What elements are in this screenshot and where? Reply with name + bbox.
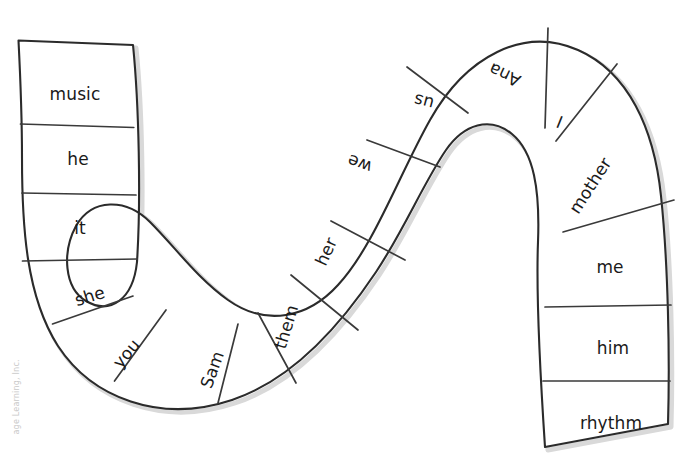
word-cell-me[interactable]: me [596, 257, 623, 277]
word-cell-he[interactable]: he [67, 149, 88, 169]
word-cell-we[interactable]: we [345, 150, 375, 177]
word-cell-music[interactable]: music [50, 84, 101, 104]
word-path-diagram: musicheitsheyouSamthemherweusAnaImotherm… [0, 0, 683, 465]
word-cell-her[interactable]: her [311, 234, 341, 268]
word-cell-it[interactable]: it [74, 218, 86, 238]
copyright-watermark: age Learning, Inc. [12, 315, 21, 435]
worksheet-canvas: musicheitsheyouSamthemherweusAnaImotherm… [0, 0, 683, 465]
word-cell-us[interactable]: us [412, 90, 436, 114]
word-cell-him[interactable]: him [597, 338, 629, 358]
word-cell-rhythm[interactable]: rhythm [580, 413, 642, 433]
snake-path-outline [19, 41, 669, 448]
